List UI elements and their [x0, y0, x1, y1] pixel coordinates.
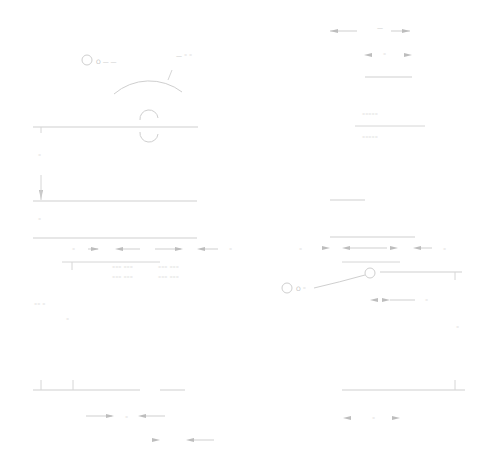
arrow-left-icon	[364, 53, 372, 57]
svg-text:⁼⁼⁼ ⁼⁼⁼: ⁼⁼⁼ ⁼⁼⁼	[112, 274, 133, 281]
svg-text:⁼: ⁼	[72, 246, 75, 253]
right-dim-row: ⁼ ⁼ O ⁼ ⁼	[282, 246, 462, 304]
bottom-view: ⁼ ⁼	[33, 380, 465, 442]
svg-text:⁼⁼ ⁼: ⁼⁼ ⁼	[34, 301, 45, 308]
arrow-left-icon	[330, 29, 338, 33]
top-left-view: O — — — ⁼ ⁼	[33, 52, 198, 142]
svg-text:—: —	[377, 24, 383, 31]
svg-text:⁼: ⁼	[38, 152, 41, 159]
svg-text:O ⁼: O ⁼	[296, 285, 306, 292]
svg-text:⁼: ⁼	[125, 414, 128, 421]
arrow-right-icon	[402, 29, 410, 33]
svg-text:⁼⁼⁼ ⁼⁼⁼: ⁼⁼⁼ ⁼⁼⁼	[158, 264, 179, 271]
arc-line	[114, 81, 182, 94]
left-dim-row: ⁼ ⁼ ⁼⁼⁼ ⁼⁼⁼ ⁼⁼⁼ ⁼⁼⁼ ⁼⁼⁼ ⁼⁼⁼ ⁼⁼⁼ ⁼⁼⁼	[62, 246, 232, 281]
technical-drawing: O — — — ⁼ ⁼ — ⁼ ⁼⁼⁼⁼⁼ ⁼⁼⁼⁼⁼ ⁼ ⁼ ⁼	[0, 0, 488, 464]
svg-text:⁼⁼⁼⁼⁼: ⁼⁼⁼⁼⁼	[362, 134, 378, 141]
svg-text:⁼: ⁼	[372, 415, 375, 422]
arrow-right-icon	[404, 53, 412, 57]
top-right-view: — ⁼ ⁼⁼⁼⁼⁼ ⁼⁼⁼⁼⁼	[330, 24, 425, 141]
svg-text:⁼: ⁼	[425, 297, 428, 304]
svg-text:⁼: ⁼	[38, 216, 41, 223]
svg-text:⁼⁼⁼ ⁼⁼⁼: ⁼⁼⁼ ⁼⁼⁼	[112, 264, 133, 271]
label-top-right: — ⁼ ⁼	[176, 52, 192, 59]
balloon-icon	[82, 55, 92, 65]
svg-text:⁼: ⁼	[383, 51, 386, 58]
svg-text:⁼: ⁼	[66, 316, 69, 323]
svg-text:⁼: ⁼	[229, 246, 232, 253]
svg-text:⁼: ⁼	[456, 324, 459, 331]
left-vertical-dims: ⁼ ⁼	[38, 152, 43, 223]
label-top-left: O — —	[96, 58, 117, 65]
leader-line	[314, 275, 365, 288]
svg-text:⁼⁼⁼⁼⁼: ⁼⁼⁼⁼⁼	[362, 111, 378, 118]
svg-text:⁼: ⁼	[299, 246, 302, 253]
svg-text:⁼⁼⁼ ⁼⁼⁼: ⁼⁼⁼ ⁼⁼⁼	[158, 274, 179, 281]
svg-text:⁼: ⁼	[443, 246, 446, 253]
balloon-icon	[282, 283, 292, 293]
